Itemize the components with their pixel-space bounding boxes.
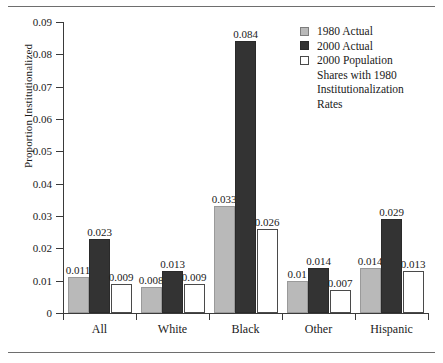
bar (308, 268, 329, 313)
bar (287, 281, 308, 313)
x-tick (63, 313, 64, 320)
y-tick-label: 0.05 (33, 146, 52, 157)
x-tick (428, 313, 429, 320)
legend-item-label: 1980 Actual (317, 25, 373, 37)
y-tick (56, 184, 63, 185)
y-tick-label: 0.01 (33, 275, 52, 286)
y-tick-label: 0.09 (33, 17, 52, 28)
legend-item: 2000 Population (300, 53, 404, 68)
bottom-rule (8, 352, 435, 353)
bar-value-label: 0.023 (87, 227, 112, 238)
chart-legend: 1980 Actual2000 Actual2000 Population Sh… (300, 24, 404, 112)
bar-value-label: 0.013 (160, 259, 185, 270)
y-tick (56, 54, 63, 55)
legend-item-label: 2000 Population (317, 54, 393, 66)
bar (330, 290, 351, 313)
x-tick-label: All (92, 322, 107, 337)
y-tick-label: 0.06 (33, 114, 52, 125)
legend-item-label: 2000 Actual (317, 40, 373, 52)
x-tick (355, 313, 356, 320)
bar-value-label: 0.009 (109, 272, 134, 283)
y-tick (56, 119, 63, 120)
legend-item-label: Rates (300, 97, 404, 112)
bar-value-label: 0.029 (379, 207, 404, 218)
bar-value-label: 0.008 (139, 275, 164, 286)
bar-value-label: 0.026 (255, 217, 280, 228)
y-tick (56, 313, 63, 314)
x-tick (136, 313, 137, 320)
y-tick (56, 22, 63, 23)
y-tick-label: 0.08 (33, 49, 52, 60)
y-tick-label: 0.04 (33, 178, 52, 189)
bar (111, 284, 132, 313)
legend-swatch-icon (300, 27, 309, 36)
bar-chart-figure: Proportion Institutionalized 00.010.020.… (0, 0, 443, 363)
bar (403, 271, 424, 313)
legend-item: 2000 Actual (300, 39, 404, 54)
legend-swatch-icon (300, 56, 309, 65)
y-tick (56, 281, 63, 282)
bar (214, 206, 235, 313)
legend-item-label: Shares with 1980 (300, 68, 404, 83)
bar-value-label: 0.014 (306, 256, 331, 267)
bar (360, 268, 381, 313)
bar-value-label: 0.011 (66, 265, 90, 276)
y-axis-line (63, 22, 64, 313)
bar (381, 219, 402, 313)
x-tick (282, 313, 283, 320)
legend-item: 1980 Actual (300, 24, 404, 39)
y-tick-label: 0.03 (33, 211, 52, 222)
y-tick (56, 87, 63, 88)
x-axis-line (63, 313, 428, 314)
x-tick-label: Other (305, 322, 332, 337)
bar (162, 271, 183, 313)
bar (235, 41, 256, 313)
y-tick-label: 0 (47, 308, 53, 319)
bar (184, 284, 205, 313)
bar-value-label: 0.033 (212, 194, 237, 205)
y-tick (56, 216, 63, 217)
bar-value-label: 0.01 (287, 269, 306, 280)
bar-value-label: 0.084 (233, 29, 258, 40)
bar-value-label: 0.007 (328, 278, 353, 289)
bar (257, 229, 278, 313)
y-tick (56, 151, 63, 152)
x-tick-label: Black (232, 322, 260, 337)
bar (89, 239, 110, 313)
y-tick (56, 248, 63, 249)
top-rule (8, 6, 435, 7)
x-tick-label: Hispanic (370, 322, 413, 337)
legend-item-label: Institutionalization (300, 82, 404, 97)
bar-value-label: 0.013 (401, 259, 426, 270)
x-tick-label: White (158, 322, 187, 337)
bar (68, 277, 89, 313)
legend-swatch-icon (300, 41, 309, 50)
y-tick-label: 0.02 (33, 243, 52, 254)
y-tick-label: 0.07 (33, 81, 52, 92)
bar-value-label: 0.009 (182, 272, 207, 283)
x-tick (209, 313, 210, 320)
bar (141, 287, 162, 313)
bar-value-label: 0.014 (358, 256, 383, 267)
